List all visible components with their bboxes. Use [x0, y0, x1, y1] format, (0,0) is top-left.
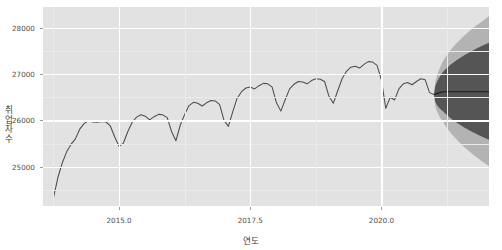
x-tick-label: 2015.0	[107, 216, 132, 225]
gridline-h-minor	[43, 51, 489, 52]
gridline-h-major	[43, 28, 489, 29]
y-tick-label: 25000	[12, 163, 35, 172]
gridline-v-minor	[447, 7, 448, 206]
gridline-v-major	[381, 7, 382, 206]
gridline-v-minor	[185, 7, 186, 206]
plot-svg	[43, 7, 489, 206]
gridline-h-minor	[43, 144, 489, 145]
gridline-v-minor	[53, 7, 54, 206]
y-axis-title-char-4: 수	[2, 135, 16, 145]
forecast-chart-figure: 취 업 자 수 연도 25000260002700028000 2015.020…	[0, 0, 502, 250]
x-tick-mark	[250, 207, 251, 210]
gridline-h-major	[43, 74, 489, 75]
gridline-v-major	[250, 7, 251, 206]
x-tick-mark	[119, 207, 120, 210]
x-tick-label: 2017.5	[238, 216, 263, 225]
observed-series-line	[53, 62, 433, 198]
gridline-v-minor	[316, 7, 317, 206]
gridline-h-minor	[43, 97, 489, 98]
y-tick-label: 26000	[12, 116, 35, 125]
y-tick-label: 28000	[12, 24, 35, 33]
x-axis-title: 연도	[0, 234, 502, 246]
x-tick-mark	[381, 207, 382, 210]
gridline-h-minor	[43, 190, 489, 191]
x-tick-label: 2020.0	[369, 216, 394, 225]
plot-panel	[43, 7, 489, 206]
gridline-v-major	[119, 7, 120, 206]
y-tick-label: 27000	[12, 70, 35, 79]
gridline-h-major	[43, 120, 489, 121]
gridline-h-major	[43, 167, 489, 168]
